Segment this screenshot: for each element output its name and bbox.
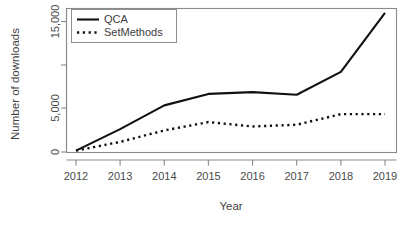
x-axis-title: Year [219, 200, 242, 212]
x-tick-label-2014: 2014 [152, 170, 176, 182]
x-tick-label-2013: 2013 [108, 170, 132, 182]
y-tick-label-0: 0 [49, 149, 61, 155]
legend-label-qca: QCA [104, 13, 129, 25]
x-tick-label-2012: 2012 [64, 170, 88, 182]
chart-figure: 0 5,000 15,000 Number of downloads 2012 … [0, 0, 415, 225]
y-tick-label-5000: 5,000 [49, 94, 61, 122]
chart-legend: QCA SetMethods [72, 10, 177, 43]
y-tick-label-15000: 15,000 [49, 5, 61, 39]
x-tick-label-2015: 2015 [196, 170, 220, 182]
x-tick-label-2016: 2016 [240, 170, 264, 182]
x-tick-label-2017: 2017 [284, 170, 308, 182]
chart-background [0, 0, 415, 225]
x-tick-label-2019: 2019 [373, 170, 397, 182]
downloads-line-chart: 0 5,000 15,000 Number of downloads 2012 … [0, 0, 415, 225]
y-axis-title: Number of downloads [9, 28, 21, 140]
legend-label-setmethods: SetMethods [104, 26, 163, 38]
x-tick-label-2018: 2018 [329, 170, 353, 182]
